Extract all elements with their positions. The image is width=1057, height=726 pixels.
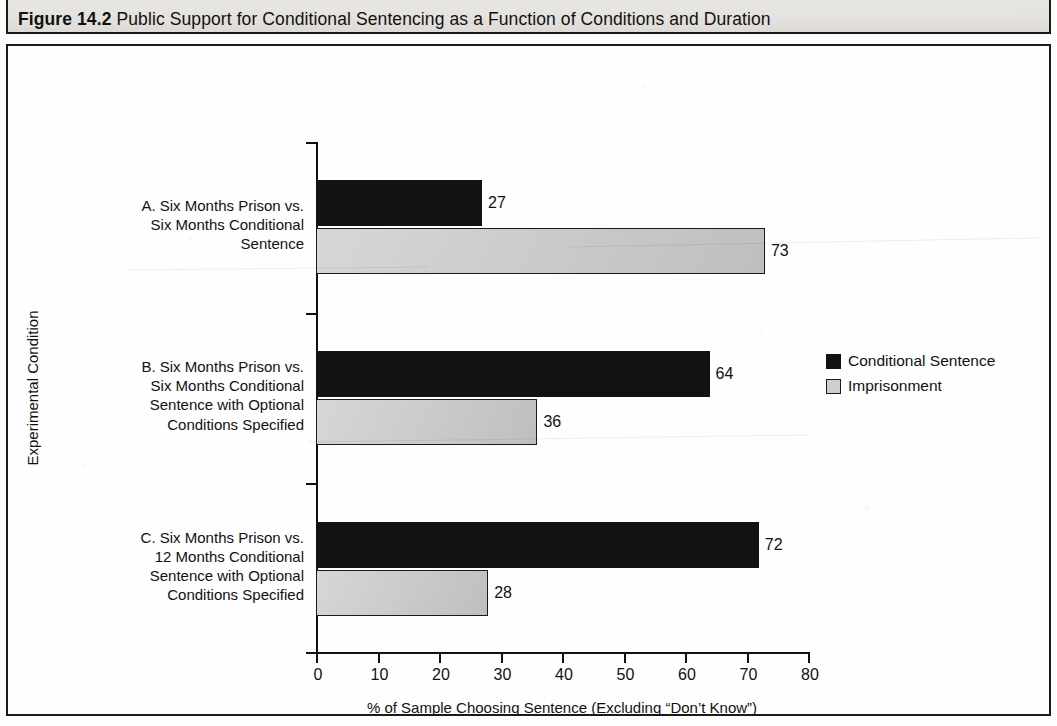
figure-title: Figure 14.2 Public Support for Condition… xyxy=(18,10,771,29)
legend-label: Imprisonment xyxy=(848,377,942,395)
bar-row: 72 xyxy=(316,522,808,568)
x-axis-tick xyxy=(439,652,441,663)
legend-swatch-icon xyxy=(826,379,841,394)
category-label-line: Sentence with Optional xyxy=(44,566,304,585)
figure-title-band: Figure 14.2 Public Support for Condition… xyxy=(6,0,1051,34)
bar-value-label: 27 xyxy=(482,194,506,212)
bar-conditional-sentence[interactable] xyxy=(316,522,759,568)
x-axis-tick-label: 50 xyxy=(603,666,649,684)
y-axis-title: Experimental Condition xyxy=(24,268,41,508)
x-axis-tick-label: 30 xyxy=(480,666,526,684)
x-axis-tick xyxy=(316,652,318,663)
plot-area: 01020304050607080 277364367228 xyxy=(316,142,808,654)
legend-item[interactable]: Conditional Sentence xyxy=(826,352,995,370)
x-axis-tick xyxy=(378,652,380,663)
category-label-line: A. Six Months Prison vs. xyxy=(44,196,304,215)
bar-value-label: 64 xyxy=(710,365,734,383)
bar-row: 36 xyxy=(316,399,808,445)
chart-frame: Experimental Condition % of Sample Choos… xyxy=(6,44,1051,716)
x-axis-tick-label: 40 xyxy=(541,666,587,684)
x-axis-tick xyxy=(685,652,687,663)
y-axis-tick xyxy=(306,652,316,654)
y-axis-tick xyxy=(306,483,316,485)
category-label-line: 12 Months Conditional xyxy=(44,547,304,566)
bar-row: 28 xyxy=(316,570,808,616)
x-axis-tick-label: 10 xyxy=(357,666,403,684)
x-axis-tick-label: 60 xyxy=(664,666,710,684)
bar-imprisonment[interactable] xyxy=(316,399,537,445)
legend-swatch-icon xyxy=(826,354,841,369)
category-label: B. Six Months Prison vs.Six Months Condi… xyxy=(44,357,304,434)
x-axis-tick-label: 0 xyxy=(295,666,341,684)
figure-page: Figure 14.2 Public Support for Condition… xyxy=(0,0,1057,726)
y-axis-tick xyxy=(306,313,316,315)
x-axis-tick-label: 20 xyxy=(418,666,464,684)
bar-imprisonment[interactable] xyxy=(316,228,765,274)
bar-row: 27 xyxy=(316,180,808,226)
legend-label: Conditional Sentence xyxy=(848,352,995,370)
category-label-line: Sentence xyxy=(44,234,304,253)
figure-title-text: Public Support for Conditional Sentencin… xyxy=(116,9,770,29)
bar-value-label: 73 xyxy=(765,242,789,260)
bar-value-label: 36 xyxy=(537,413,561,431)
chart-legend: Conditional SentenceImprisonment xyxy=(826,352,995,402)
category-label-line: Six Months Conditional xyxy=(44,215,304,234)
bar-row: 64 xyxy=(316,351,808,397)
x-axis-tick xyxy=(747,652,749,663)
bar-row: 73 xyxy=(316,228,808,274)
bar-value-label: 28 xyxy=(488,584,512,602)
category-label-line: Conditions Specified xyxy=(44,415,304,434)
legend-item[interactable]: Imprisonment xyxy=(826,377,995,395)
category-label-line: B. Six Months Prison vs. xyxy=(44,357,304,376)
x-axis-tick xyxy=(808,652,810,663)
figure-number: Figure 14.2 xyxy=(18,9,112,29)
y-axis-tick xyxy=(306,142,316,144)
category-label-line: Conditions Specified xyxy=(44,585,304,604)
x-axis-tick xyxy=(624,652,626,663)
x-axis-tick-label: 80 xyxy=(787,666,833,684)
x-axis-tick xyxy=(562,652,564,663)
x-axis-tick xyxy=(501,652,503,663)
bar-conditional-sentence[interactable] xyxy=(316,180,482,226)
category-label-line: C. Six Months Prison vs. xyxy=(44,528,304,547)
category-label-line: Sentence with Optional xyxy=(44,395,304,414)
bar-conditional-sentence[interactable] xyxy=(316,351,710,397)
bar-value-label: 72 xyxy=(759,536,783,554)
category-label: A. Six Months Prison vs.Six Months Condi… xyxy=(44,196,304,254)
x-axis-tick-label: 70 xyxy=(726,666,772,684)
category-label: C. Six Months Prison vs.12 Months Condit… xyxy=(44,528,304,605)
x-axis-title: % of Sample Choosing Sentence (Excluding… xyxy=(316,699,808,716)
category-label-line: Six Months Conditional xyxy=(44,376,304,395)
bar-imprisonment[interactable] xyxy=(316,570,488,616)
